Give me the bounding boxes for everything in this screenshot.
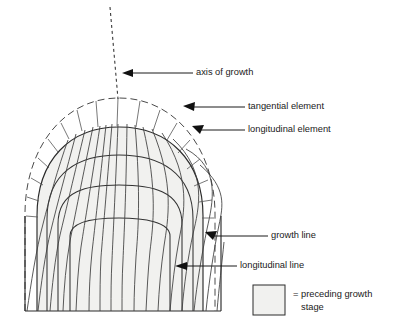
tangential-element [136, 101, 140, 127]
legend-swatch [253, 285, 285, 315]
tangential-element [26, 216, 38, 217]
axis-of-growth-line [110, 7, 118, 99]
annotation-longitudinal-element: longitudinal element [192, 124, 331, 134]
label-tangential-element: tangential element [248, 101, 324, 111]
tangential-element [153, 110, 160, 131]
label-axis-of-growth: axis of growth [196, 67, 253, 77]
legend: = preceding growth stage [253, 285, 372, 315]
tangential-element [38, 158, 49, 168]
tangential-element [61, 123, 69, 139]
legend-label-line1: = preceding growth [293, 289, 372, 299]
arrowhead-axis-of-growth [122, 69, 133, 77]
annotation-axis-of-growth: axis of growth [122, 67, 253, 77]
annotation-tangential-element: tangential element [183, 101, 324, 111]
legend-label-line2: stage [301, 302, 324, 312]
arrowhead-tangential-element [183, 102, 195, 111]
tangential-element [96, 101, 98, 127]
annotation-growth-line: growth line [205, 230, 316, 240]
label-longitudinal-line: longitudinal line [240, 260, 304, 270]
label-longitudinal-element: longitudinal element [248, 124, 331, 134]
label-growth-line: growth line [271, 230, 316, 240]
tangential-element [167, 123, 177, 140]
tangential-element [117, 98, 118, 126]
tangential-element [77, 110, 82, 131]
shell-growth-diagram: axis of growth tangential element longit… [0, 0, 405, 333]
tangential-element [48, 139, 58, 152]
tangential-element [27, 197, 39, 201]
